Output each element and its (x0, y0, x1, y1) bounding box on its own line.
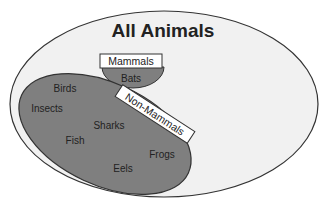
mammals-label: Mammals (108, 55, 154, 67)
item-insects: Insects (31, 103, 63, 114)
item-eels: Eels (113, 163, 132, 174)
item-frogs: Frogs (149, 149, 175, 160)
item-bats: Bats (121, 73, 141, 84)
venn-diagram: All Animals Mammals Bats Non-Mammals Bir… (0, 0, 332, 205)
diagram-title: All Animals (112, 20, 215, 41)
item-sharks: Sharks (93, 120, 124, 131)
item-birds: Birds (54, 83, 77, 94)
item-fish: Fish (66, 135, 85, 146)
